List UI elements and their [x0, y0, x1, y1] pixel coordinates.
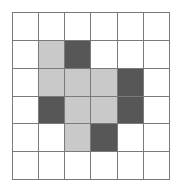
grid-cell-r0-c5-empty: [144, 13, 170, 41]
grid-cell-r3-c1-dark: [39, 97, 65, 125]
grid-cell-r4-c5-empty: [144, 124, 170, 152]
grid-cell-r1-c0-empty: [13, 41, 39, 69]
grid-cell-r1-c2-dark: [65, 41, 91, 69]
grid-cell-r1-c5-empty: [144, 41, 170, 69]
grid-cell-r2-c4-dark: [118, 69, 144, 97]
grid-cell-r1-c4-empty: [118, 41, 144, 69]
grid-cell-r4-c3-dark: [91, 124, 117, 152]
grid-cell-r2-c3-light: [91, 69, 117, 97]
grid-cell-r2-c1-light: [39, 69, 65, 97]
grid-cell-r4-c0-empty: [13, 124, 39, 152]
grid-cell-r5-c5-empty: [144, 152, 170, 180]
grid-cell-r2-c5-empty: [144, 69, 170, 97]
grid-cell-r4-c2-light: [65, 124, 91, 152]
grid-cell-r4-c1-empty: [39, 124, 65, 152]
grid-cell-r3-c3-light: [91, 97, 117, 125]
grid-cell-r5-c2-empty: [65, 152, 91, 180]
grid-cell-r3-c2-light: [65, 97, 91, 125]
grid-cell-r2-c0-empty: [13, 69, 39, 97]
grid-cell-r5-c1-empty: [39, 152, 65, 180]
grid-cell-r2-c2-light: [65, 69, 91, 97]
grid-cell-r5-c3-empty: [91, 152, 117, 180]
grid-cell-r0-c3-empty: [91, 13, 117, 41]
grid-cell-r4-c4-empty: [118, 124, 144, 152]
grid-cell-r5-c0-empty: [13, 152, 39, 180]
grid-cell-r3-c4-dark: [118, 97, 144, 125]
grid-cell-r3-c5-empty: [144, 97, 170, 125]
shaded-grid: [12, 12, 170, 180]
grid-cell-r3-c0-empty: [13, 97, 39, 125]
grid-cell-r0-c4-empty: [118, 13, 144, 41]
grid-cell-r0-c1-empty: [39, 13, 65, 41]
grid-cell-r1-c3-empty: [91, 41, 117, 69]
grid-cell-r5-c4-empty: [118, 152, 144, 180]
grid-cell-r0-c0-empty: [13, 13, 39, 41]
grid-cell-r1-c1-light: [39, 41, 65, 69]
grid-cell-r0-c2-empty: [65, 13, 91, 41]
